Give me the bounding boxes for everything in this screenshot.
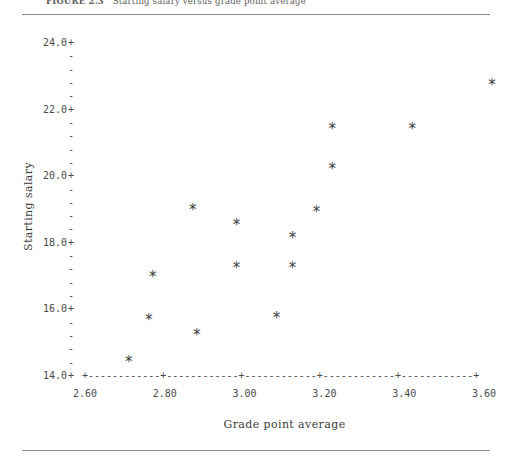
x-axis-tick-label: 3.60 [472, 388, 496, 399]
y-axis-minor-tick: - [67, 250, 75, 261]
data-point: * [288, 261, 297, 276]
y-axis-tick-label: 16.0 [33, 303, 67, 314]
data-point: * [192, 328, 201, 343]
x-axis-tick-label: 2.80 [153, 388, 177, 399]
y-axis-tick-label: 22.0 [33, 103, 67, 114]
y-axis-minor-tick: - [67, 143, 75, 154]
y-axis-tick-label: 20.0 [33, 170, 67, 181]
data-point: * [288, 231, 297, 246]
y-axis-minor-tick: - [67, 90, 75, 101]
y-axis-tick-mark: + [67, 103, 75, 114]
y-axis-title: Starting salary [22, 161, 35, 250]
data-point: * [312, 204, 321, 219]
y-axis-minor-tick: - [67, 63, 75, 74]
data-point: * [144, 313, 153, 328]
y-axis-tick: 24.0+ [33, 37, 75, 48]
y-axis-minor-tick: - [67, 316, 75, 327]
y-axis-minor-tick: - [67, 156, 75, 167]
x-axis-tick-label: 3.00 [233, 388, 257, 399]
data-point: * [272, 311, 281, 326]
y-axis-minor-tick: - [67, 196, 75, 207]
data-point: * [124, 354, 133, 369]
y-axis-minor-tick: - [67, 50, 75, 61]
data-point: * [328, 161, 337, 176]
x-axis-line: +------------+------------+------------+… [82, 370, 479, 381]
data-point: * [188, 203, 197, 218]
data-point: * [487, 78, 496, 93]
data-point: * [408, 121, 417, 136]
y-axis-tick: 22.0+ [33, 103, 75, 114]
y-axis-minor-tick: - [67, 223, 75, 234]
data-point: * [232, 218, 241, 233]
y-axis-minor-tick: - [67, 116, 75, 127]
y-axis-tick: 16.0+ [33, 303, 75, 314]
y-axis-tick: 20.0+ [33, 170, 75, 181]
y-axis-tick: 14.0+ [33, 370, 75, 381]
y-axis-tick-mark: + [67, 303, 75, 314]
y-axis-minor-tick: - [67, 356, 75, 367]
y-axis-minor-tick: - [67, 330, 75, 341]
y-axis-minor-tick: - [67, 276, 75, 287]
y-axis-tick-mark: + [67, 170, 75, 181]
y-axis-tick-label: 18.0 [33, 236, 67, 247]
y-axis-tick-label: 14.0 [33, 370, 67, 381]
y-axis-tick-mark: + [67, 236, 75, 247]
y-axis-minor-tick: - [67, 76, 75, 87]
data-point: * [328, 121, 337, 136]
y-axis-minor-tick: - [67, 210, 75, 221]
x-axis-tick-label: 3.40 [392, 388, 416, 399]
y-axis-tick: 18.0+ [33, 236, 75, 247]
x-axis-tick-label: 3.20 [312, 388, 336, 399]
y-axis-minor-tick: - [67, 343, 75, 354]
y-axis-minor-tick: - [67, 263, 75, 274]
x-axis-title: Grade point average [223, 418, 345, 431]
data-point: * [148, 269, 157, 284]
y-axis-tick-label: 24.0 [33, 37, 67, 48]
y-axis-minor-tick: - [67, 183, 75, 194]
y-axis-minor-tick: - [67, 130, 75, 141]
y-axis-tick-mark: + [67, 370, 75, 381]
scatter-plot: 14.0+16.0+18.0+20.0+22.0+24.0+----------… [0, 0, 514, 459]
y-axis-tick-mark: + [67, 37, 75, 48]
y-axis-minor-tick: - [67, 290, 75, 301]
x-axis-tick-label: 2.60 [73, 388, 97, 399]
data-point: * [232, 261, 241, 276]
